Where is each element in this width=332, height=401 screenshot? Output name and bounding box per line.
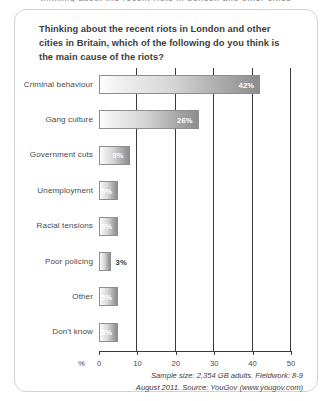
x-tick-mark-20 bbox=[176, 351, 177, 355]
bar-value-label: 5% bbox=[101, 328, 112, 337]
bar-row: Gang culture26% bbox=[15, 110, 319, 129]
bar-value-label: 8% bbox=[112, 151, 123, 160]
bar-value-label: 5% bbox=[101, 222, 112, 231]
x-tick-mark-0 bbox=[99, 351, 100, 355]
bar-4: 5% bbox=[99, 181, 118, 200]
category-label: Don't know bbox=[15, 327, 93, 336]
x-axis-line bbox=[99, 351, 292, 352]
x-tick-label-50: 50 bbox=[281, 359, 301, 368]
bar-value-label: 5% bbox=[101, 292, 112, 301]
bar-row: Government cuts8% bbox=[15, 146, 319, 165]
x-tick-label-40: 40 bbox=[243, 359, 263, 368]
bar-value-label: 3% bbox=[116, 257, 127, 266]
bar-8: 5% bbox=[99, 323, 118, 342]
x-tick-label-0: 0 bbox=[89, 359, 109, 368]
bar-6 bbox=[99, 252, 111, 271]
footnote-line-1: Sample size: 2,354 GB adults. Fieldwork:… bbox=[49, 370, 303, 382]
bar-row: Other5% bbox=[15, 287, 319, 306]
category-label: Government cuts bbox=[15, 150, 93, 159]
chart-plot-area: Criminal behaviour42%Gang culture26%Gove… bbox=[15, 68, 319, 354]
category-label: Criminal behaviour bbox=[15, 80, 93, 89]
x-tick-mark-50 bbox=[291, 351, 292, 355]
bar-7: 5% bbox=[99, 287, 118, 306]
x-tick-mark-30 bbox=[214, 351, 215, 355]
bar-value-label: 42% bbox=[238, 80, 254, 89]
chart-question-title: Thinking about the recent riots in Londo… bbox=[39, 23, 289, 64]
bar-value-label: 26% bbox=[177, 115, 193, 124]
bar-1: 42% bbox=[99, 75, 260, 94]
x-tick-label-20: 20 bbox=[166, 359, 186, 368]
bar-2: 26% bbox=[99, 110, 199, 129]
bar-3: 8% bbox=[99, 146, 130, 165]
bar-value-label: 5% bbox=[101, 186, 112, 195]
bar-row: Criminal behaviour42% bbox=[15, 75, 319, 94]
category-label: Other bbox=[15, 292, 93, 301]
category-label: Racial tensions bbox=[15, 221, 93, 230]
category-label: Unemployment bbox=[15, 186, 93, 195]
bar-row: Unemployment5% bbox=[15, 181, 319, 200]
bar-5: 5% bbox=[99, 217, 118, 236]
percent-axis-unit: % bbox=[78, 359, 85, 368]
bar-row: Poor policing3% bbox=[15, 252, 319, 271]
bar-row: Racial tensions5% bbox=[15, 217, 319, 236]
cropped-header-text: thinking about the recent riots in Londo… bbox=[0, 0, 332, 2]
x-tick-mark-10 bbox=[137, 351, 138, 355]
x-tick-mark-40 bbox=[253, 351, 254, 355]
chart-card: Thinking about the recent riots in Londo… bbox=[14, 9, 318, 392]
footnote-line-2: August 2011. Source: YouGov (www.yougov.… bbox=[49, 382, 303, 394]
category-label: Poor policing bbox=[15, 257, 93, 266]
chart-source-footnote: Sample size: 2,354 GB adults. Fieldwork:… bbox=[49, 370, 303, 394]
x-tick-label-30: 30 bbox=[204, 359, 224, 368]
bar-row: Don't know5% bbox=[15, 323, 319, 342]
x-tick-label-10: 10 bbox=[127, 359, 147, 368]
category-label: Gang culture bbox=[15, 115, 93, 124]
